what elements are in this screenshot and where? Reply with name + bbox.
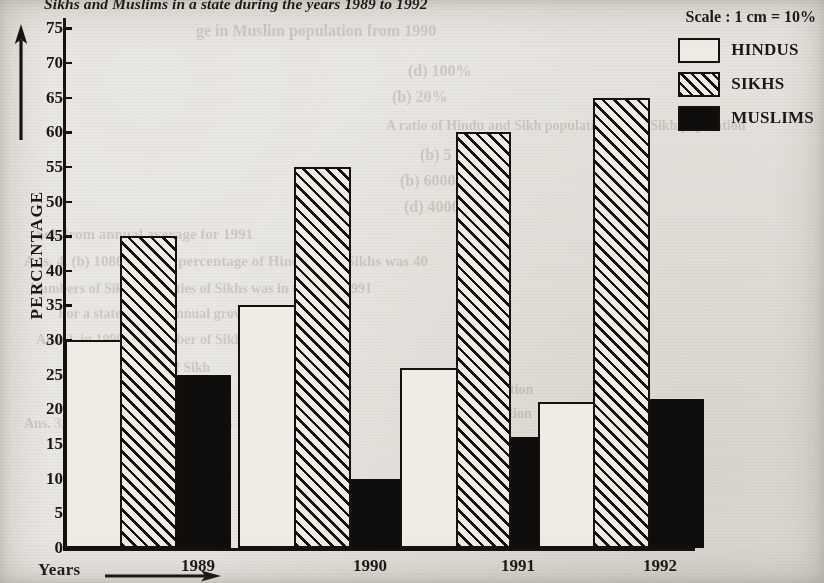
y-tick-mark-70 [63,62,72,65]
y-tick-mark-60 [63,131,72,134]
y-tick-mark-50 [63,201,72,204]
bar-1992-hindus [538,402,595,548]
bar-1989-muslims [174,375,231,548]
y-tick-label-15: 15 [23,435,63,452]
bar-1990-hindus [238,305,296,548]
y-tick-label-65: 65 [23,89,63,106]
y-tick-label-20: 20 [23,400,63,417]
y-tick-label-0: 0 [23,539,63,556]
y-tick-mark-75 [63,27,72,30]
bar-1989-sikhs [120,236,177,548]
y-tick-label-25: 25 [23,366,63,383]
bar-1992-muslims [647,399,704,548]
y-tick-mark-65 [63,97,72,100]
bar-1991-sikhs [456,132,511,548]
bar-1990-sikhs [294,167,351,548]
y-tick-label-40: 40 [23,262,63,279]
x-tick-label-1990: 1990 [325,556,415,576]
y-tick-mark-45 [63,235,72,238]
bar-chart: PERCENTAGE 05101520253035404550556065707… [0,0,824,583]
y-tick-mark-55 [63,166,72,169]
y-tick-label-5: 5 [23,504,63,521]
x-tick-label-1991: 1991 [473,556,563,576]
y-tick-mark-35 [63,304,72,307]
y-tick-label-55: 55 [23,158,63,175]
y-tick-label-45: 45 [23,227,63,244]
bar-1989-hindus [65,340,122,548]
x-axis-line [63,548,695,551]
y-tick-label-70: 70 [23,54,63,71]
y-tick-label-50: 50 [23,193,63,210]
bar-1990-muslims [348,479,405,548]
bar-1992-sikhs [593,98,650,548]
y-tick-mark-40 [63,270,72,273]
y-tick-label-60: 60 [23,123,63,140]
y-tick-label-30: 30 [23,331,63,348]
x-axis-label: Years [38,560,81,580]
x-tick-label-1992: 1992 [615,556,705,576]
y-tick-label-35: 35 [23,296,63,313]
right-arrow-icon [105,570,223,582]
y-tick-label-10: 10 [23,470,63,487]
y-axis-label: PERCENTAGE [27,160,47,350]
y-tick-label-75: 75 [23,19,63,36]
bar-1991-hindus [400,368,458,548]
